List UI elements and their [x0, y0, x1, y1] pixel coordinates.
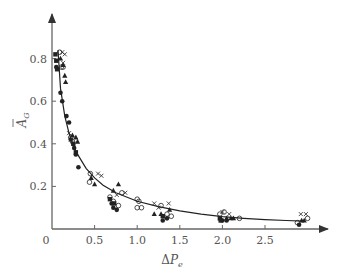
- cross-marker: [96, 172, 100, 176]
- filled-triangle-marker: [92, 181, 97, 186]
- svg-text:AG: AG: [15, 112, 31, 129]
- scatter-chart: 0.51.01.52.02.50.20.40.60.8 0 ΔPe AG: [0, 0, 348, 273]
- x-tick-label: 0.5: [86, 234, 104, 247]
- filled-square-marker: [74, 150, 78, 154]
- y-tick-label: 0.4: [30, 138, 48, 151]
- cross-marker: [227, 212, 231, 216]
- x-tick-label: 2.5: [256, 234, 274, 247]
- y-tick-label: 0.2: [30, 180, 48, 193]
- svg-text:ΔPe: ΔPe: [161, 253, 183, 269]
- cross-marker: [152, 201, 156, 205]
- x-tick-label: 2.0: [214, 234, 232, 247]
- y-tick-label: 0.8: [30, 53, 48, 66]
- filled-triangle-marker: [116, 181, 121, 186]
- open-circle-marker: [165, 212, 170, 217]
- fit-curve-line: [58, 50, 303, 221]
- filled-triangle-marker: [62, 73, 67, 78]
- axes: [52, 14, 328, 229]
- fit-curve: [58, 50, 303, 221]
- filled-triangle-marker: [158, 211, 163, 216]
- origin-label: 0: [43, 234, 50, 247]
- filled-square-marker: [53, 52, 57, 56]
- filled-circle-marker: [60, 99, 65, 104]
- filled-square-marker: [218, 218, 222, 222]
- filled-circle-marker: [160, 218, 165, 223]
- x-axis-title: ΔPe: [161, 253, 183, 269]
- open-circle-marker: [305, 216, 310, 221]
- cross-marker: [99, 174, 103, 178]
- y-axis-title: AG: [13, 112, 31, 129]
- filled-circle-marker: [58, 90, 63, 95]
- filled-triangle-marker: [152, 211, 157, 216]
- filled-circle-marker: [76, 165, 81, 170]
- open-circle-marker: [116, 203, 121, 208]
- filled-square-marker: [55, 67, 59, 71]
- cross-marker: [299, 212, 303, 216]
- open-circle-marker: [87, 180, 92, 185]
- cross-marker: [63, 52, 67, 56]
- filled-triangle-marker: [75, 139, 80, 144]
- cross-marker: [167, 201, 171, 205]
- cross-marker: [304, 212, 308, 216]
- y-tick-label: 0.6: [30, 95, 48, 108]
- filled-square-marker: [54, 59, 58, 63]
- filled-circle-marker: [64, 114, 69, 119]
- x-tick-label: 1.0: [128, 234, 146, 247]
- filled-circle-marker: [72, 146, 77, 151]
- chart-container: 0.51.01.52.02.50.20.40.60.8 0 ΔPe AG: [0, 0, 348, 273]
- filled-circle-marker: [67, 120, 72, 125]
- x-tick-label: 1.5: [171, 234, 189, 247]
- filled-triangle-marker: [63, 79, 68, 84]
- open-circle-marker: [169, 214, 174, 219]
- data-points: [53, 50, 310, 227]
